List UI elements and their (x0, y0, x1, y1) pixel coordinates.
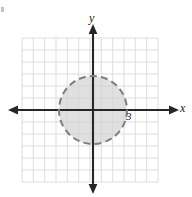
coordinate-plane-svg (0, 0, 192, 197)
x-axis-arrow-left (8, 105, 18, 114)
x-axis-label: x (180, 102, 185, 114)
graph-figure: x y 3 (0, 0, 192, 197)
x-axis-arrow-right (169, 105, 179, 114)
axes (14, 29, 172, 188)
radius-tick-label: 3 (126, 111, 132, 122)
y-axis-arrow-up (89, 24, 98, 34)
y-axis-label: y (89, 12, 94, 24)
y-axis-arrow-down (89, 184, 98, 194)
